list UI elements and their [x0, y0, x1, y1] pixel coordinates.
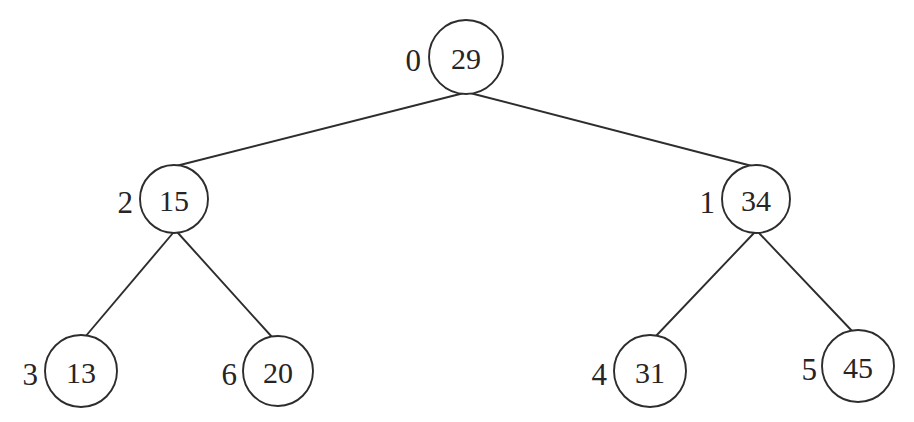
node-index-label: 1 [700, 185, 716, 220]
node-value-label: 34 [741, 184, 771, 217]
tree-node-34: 341 [700, 165, 791, 233]
tree-node-15: 152 [118, 165, 209, 233]
tree-node-20: 206 [222, 336, 314, 406]
tree-diagram-canvas: 290152341133206314455 [0, 0, 914, 422]
tree-node-45: 455 [802, 330, 895, 402]
node-value-label: 29 [451, 42, 481, 75]
tree-node-29: 290 [406, 20, 504, 94]
node-index-label: 4 [592, 357, 608, 392]
tree-node-layer: 290152341133206314455 [23, 20, 895, 407]
tree-edge-1-to-4 [655, 233, 754, 337]
tree-edge-2-to-6 [178, 233, 272, 337]
node-index-label: 3 [23, 357, 39, 392]
node-value-label: 20 [263, 356, 293, 389]
node-value-label: 15 [159, 184, 189, 217]
node-index-label: 5 [802, 352, 818, 387]
node-index-label: 0 [406, 43, 422, 78]
tree-node-13: 133 [23, 335, 118, 407]
node-index-label: 6 [222, 357, 238, 392]
tree-edge-2-to-3 [85, 233, 173, 337]
tree-edge-1-to-5 [759, 233, 853, 332]
node-value-label: 31 [635, 356, 665, 389]
tree-edge-0-to-2 [176, 93, 464, 166]
node-value-label: 13 [66, 356, 96, 389]
tree-node-31: 314 [592, 335, 687, 407]
node-index-label: 2 [118, 185, 134, 220]
binary-tree-figure: 290152341133206314455 [0, 0, 914, 422]
node-value-label: 45 [843, 351, 873, 384]
tree-edge-0-to-1 [470, 93, 752, 166]
